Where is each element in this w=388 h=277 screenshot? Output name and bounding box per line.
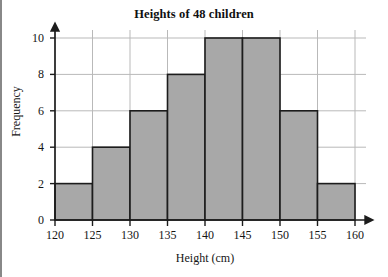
xtick-label-140: 140 <box>185 228 225 243</box>
ytick-label-10: 10 <box>14 31 44 46</box>
bar-145-150 <box>243 38 281 220</box>
xtick-label-145: 145 <box>223 228 263 243</box>
bar-155-160 <box>318 184 356 220</box>
bar-140-145 <box>205 38 243 220</box>
bar-130-135 <box>130 111 168 220</box>
bar-125-130 <box>93 147 131 220</box>
ytick-label-2: 2 <box>14 177 44 192</box>
xtick-label-160: 160 <box>335 228 375 243</box>
xtick-label-130: 130 <box>110 228 150 243</box>
bar-150-155 <box>280 111 318 220</box>
xtick-label-125: 125 <box>73 228 113 243</box>
bar-120-125 <box>55 184 93 220</box>
histogram-bars <box>55 38 355 220</box>
xtick-label-135: 135 <box>148 228 188 243</box>
ytick-label-0: 0 <box>14 213 44 228</box>
xtick-label-155: 155 <box>298 228 338 243</box>
xtick-label-150: 150 <box>260 228 300 243</box>
bar-135-140 <box>168 74 206 220</box>
histogram-figure: Heights of 48 children <box>0 0 388 277</box>
x-axis-ticks <box>55 220 355 226</box>
xtick-label-120: 120 <box>35 228 75 243</box>
x-axis-label: Height (cm) <box>55 251 355 266</box>
y-axis-label: Frequency <box>9 67 24 157</box>
